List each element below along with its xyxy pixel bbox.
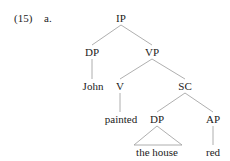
node-sc: SC <box>178 80 191 92</box>
triangle-dp <box>134 126 182 145</box>
branch-sc-ap <box>185 93 213 112</box>
node-dp-subject: DP <box>85 46 99 58</box>
branch-ip-dp <box>92 25 121 45</box>
node-dp-object: DP <box>150 113 164 125</box>
node-vp: VP <box>145 46 159 58</box>
branch-sc-dp <box>157 93 185 112</box>
branch-ip-vp <box>121 25 152 45</box>
leaf-john: John <box>83 80 104 92</box>
node-ap: AP <box>206 113 220 125</box>
tree-branches <box>0 0 230 161</box>
branch-vp-v <box>120 59 152 79</box>
leaf-the-house: the house <box>136 146 178 158</box>
leaf-red: red <box>206 146 220 158</box>
node-v: V <box>116 80 124 92</box>
branch-vp-sc <box>152 59 185 79</box>
node-ip: IP <box>116 12 126 24</box>
leaf-painted: painted <box>105 113 137 125</box>
